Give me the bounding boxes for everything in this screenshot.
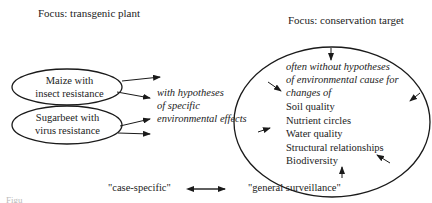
maize-label-line2: insect resistance — [22, 87, 117, 100]
hypothesis-text: with hypotheses of specific environmenta… — [157, 86, 247, 125]
maize-label: Maize with insect resistance — [22, 74, 117, 100]
sugarbeet-arrow-1 — [120, 119, 150, 126]
maize-arrow-1 — [122, 77, 160, 81]
sugarbeet-label-line1: Sugarbeet with — [20, 111, 115, 124]
oval-arrow-upper-left — [268, 82, 281, 91]
target-item: Biodiversity — [286, 154, 384, 168]
case-specific-label: "case-specific" — [108, 182, 171, 193]
oval-arrow-right — [410, 93, 420, 101]
target-item: Nutrient circles — [286, 114, 384, 128]
sugarbeet-label: Sugarbeet with virus resistance — [20, 111, 115, 137]
conservation-target-list: Soil quality Nutrient circles Water qual… — [286, 100, 384, 168]
hypothesis-line2: of specific — [157, 99, 247, 112]
intro-line3: changes of — [286, 86, 398, 99]
intro-line2: of environmental cause for — [286, 73, 398, 86]
right-heading: Focus: conservation target — [288, 14, 404, 26]
sugarbeet-arrow-2 — [118, 133, 150, 134]
target-item: Structural relationships — [286, 141, 384, 155]
hypothesis-line3: environmental effects — [157, 112, 247, 125]
maize-arrow-2 — [117, 92, 150, 98]
general-surveillance-label: "general surveillance" — [248, 182, 341, 193]
sugarbeet-label-line2: virus resistance — [20, 124, 115, 137]
oval-arrow-lower-left — [258, 128, 270, 132]
conservation-intro: often without hypotheses of environmenta… — [286, 60, 398, 99]
target-item: Soil quality — [286, 100, 384, 114]
left-heading: Focus: transgenic plant — [38, 7, 140, 19]
maize-label-line1: Maize with — [22, 74, 117, 87]
intro-line1: often without hypotheses — [286, 60, 398, 73]
target-item: Water quality — [286, 127, 384, 141]
hypothesis-line1: with hypotheses — [157, 86, 247, 99]
figure-caption-fragment: Figu — [6, 195, 23, 203]
